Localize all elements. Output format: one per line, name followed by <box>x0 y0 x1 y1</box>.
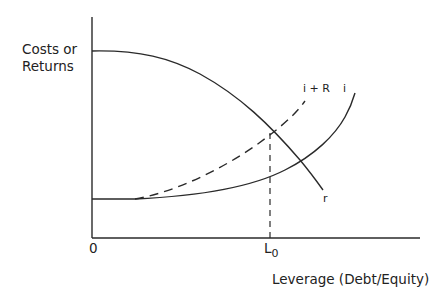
l0-label-main: L <box>264 240 272 256</box>
i-curve-label: i <box>343 80 346 97</box>
r-curve-label: r <box>323 190 328 207</box>
x-axis-label: Leverage (Debt/Equity) <box>272 271 429 288</box>
i-plus-r-curve-label: i + R <box>303 80 330 97</box>
i-plus-r-curve <box>135 101 305 199</box>
l0-label-subscript: 0 <box>272 247 279 260</box>
y-axis-label-line1: Costs or <box>22 41 77 58</box>
l0-label: L0 <box>264 240 279 262</box>
y-axis-label: Costs or Returns <box>22 41 77 75</box>
origin-label: 0 <box>89 240 98 257</box>
y-axis-label-line2: Returns <box>22 58 77 75</box>
i-curve <box>92 93 355 199</box>
